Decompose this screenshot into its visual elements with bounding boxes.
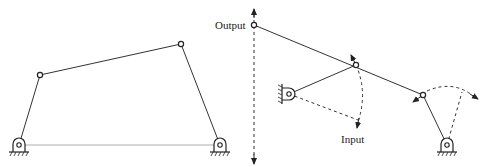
output-point-icon [251, 22, 256, 27]
coupler-link [254, 25, 423, 95]
ground-pivot-icon [9, 138, 29, 156]
output-label: Output [215, 19, 246, 31]
input-label: Input [341, 133, 364, 145]
rocker-arc [427, 86, 472, 95]
input-arc [356, 65, 363, 122]
left-crank [19, 75, 40, 145]
ground-pivot-icon [210, 138, 230, 156]
linkage-diagram: Output Input [0, 0, 482, 167]
ground-pivot-icon [278, 84, 295, 104]
input-crank-alt-position [289, 94, 358, 120]
rocker-arrow-icon [470, 94, 478, 99]
ground-pivot-icon [437, 138, 457, 156]
right-rocker [423, 95, 447, 145]
joint-icon [178, 41, 183, 46]
joint-icon [353, 62, 358, 67]
right-rocker-alt-position [447, 92, 462, 145]
four-bar-linkage [9, 41, 230, 156]
input-crank [289, 65, 356, 94]
joint-icon [420, 92, 425, 97]
straight-line-mechanism: Output Input [215, 9, 478, 164]
coupler-link [40, 44, 181, 75]
joint-icon [37, 72, 42, 77]
right-rocker [181, 44, 220, 145]
